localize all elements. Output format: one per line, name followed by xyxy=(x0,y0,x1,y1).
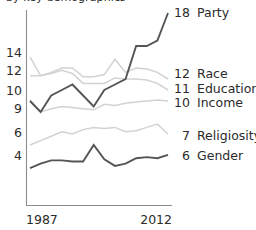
legend-value-education: 11 xyxy=(174,81,190,96)
chart-container: by key demographics 141210964 1987 2012 … xyxy=(0,0,256,230)
y-axis-tick-6: 6 xyxy=(14,125,22,140)
legend-value-party: 18 xyxy=(174,5,190,20)
y-axis-tick-10: 10 xyxy=(6,83,22,98)
legend-value-income: 10 xyxy=(174,95,190,110)
legend-label-party: Party xyxy=(197,5,230,20)
x-axis-end-label: 2012 xyxy=(140,212,172,227)
y-axis-tick-14: 14 xyxy=(6,45,22,60)
series-line-race xyxy=(30,57,168,79)
y-axis-tick-12: 12 xyxy=(6,63,22,78)
series-group xyxy=(30,13,168,168)
series-line-education xyxy=(30,70,168,90)
y-axis-tick-4: 4 xyxy=(14,148,22,163)
series-line-gender xyxy=(30,145,168,168)
legend-label-education: Education xyxy=(197,81,256,96)
legend-value-gender: 6 xyxy=(182,148,190,163)
legend-value-race: 12 xyxy=(174,66,190,81)
legend-label-gender: Gender xyxy=(197,148,244,163)
y-axis-labels: 141210964 xyxy=(6,45,22,163)
x-axis-labels: 1987 2012 xyxy=(26,212,172,227)
series-line-income xyxy=(30,100,168,112)
series-line-religiosity xyxy=(30,124,168,145)
legend-label-income: Income xyxy=(197,95,243,110)
legend: 18Party12Race11Education10Income7Religio… xyxy=(174,5,256,163)
series-line-party xyxy=(30,13,168,112)
line-chart-svg: 141210964 1987 2012 18Party12Race11Educa… xyxy=(0,0,256,230)
legend-value-religiosity: 7 xyxy=(182,128,190,143)
x-axis-start-label: 1987 xyxy=(26,212,58,227)
legend-label-race: Race xyxy=(197,66,228,81)
y-axis-tick-9: 9 xyxy=(14,101,22,116)
legend-label-religiosity: Religiosity xyxy=(197,128,256,143)
